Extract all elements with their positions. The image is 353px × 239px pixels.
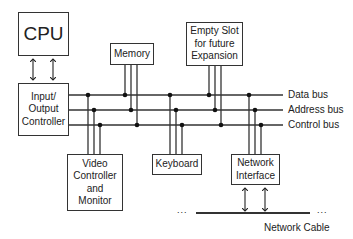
expansion-label-line3: Expansion — [190, 50, 238, 63]
keyboard-box: Keyboard — [152, 154, 202, 175]
keyboard-label: Keyboard — [156, 158, 199, 171]
video-controller-box: Video Controller and Monitor — [67, 154, 123, 211]
address-bus-label: Address bus — [288, 104, 344, 115]
io-controller-box: Input/ Output Controller — [18, 83, 69, 136]
cpu-label: CPU — [23, 28, 63, 41]
cable-ellipsis-left: ... — [177, 205, 188, 215]
cable-ellipsis-right: ... — [317, 205, 328, 215]
video-label-line2: Controller — [73, 170, 116, 183]
expansion-slot-box: Empty Slot for future Expansion — [186, 22, 243, 66]
control-bus-label: Control bus — [288, 119, 339, 130]
io-controller-label-line2: Output — [22, 103, 65, 116]
cpu-box: CPU — [18, 12, 69, 56]
expansion-label-line2: for future — [190, 38, 238, 51]
video-label-line4: Monitor — [73, 195, 116, 208]
memory-box: Memory — [110, 43, 154, 65]
video-label-line1: Video — [73, 158, 116, 171]
memory-label: Memory — [114, 48, 150, 61]
network-cable-label: Network Cable — [264, 222, 330, 233]
video-label-line3: and — [73, 183, 116, 196]
network-interface-label-line2: Interface — [236, 170, 275, 183]
io-controller-label-line3: Controller — [22, 116, 65, 129]
network-interface-box: Network Interface — [231, 154, 280, 185]
data-bus-label: Data bus — [288, 89, 328, 100]
expansion-label-line1: Empty Slot — [190, 25, 238, 38]
io-controller-label-line1: Input/ — [22, 91, 65, 104]
network-interface-label-line1: Network — [236, 157, 275, 170]
